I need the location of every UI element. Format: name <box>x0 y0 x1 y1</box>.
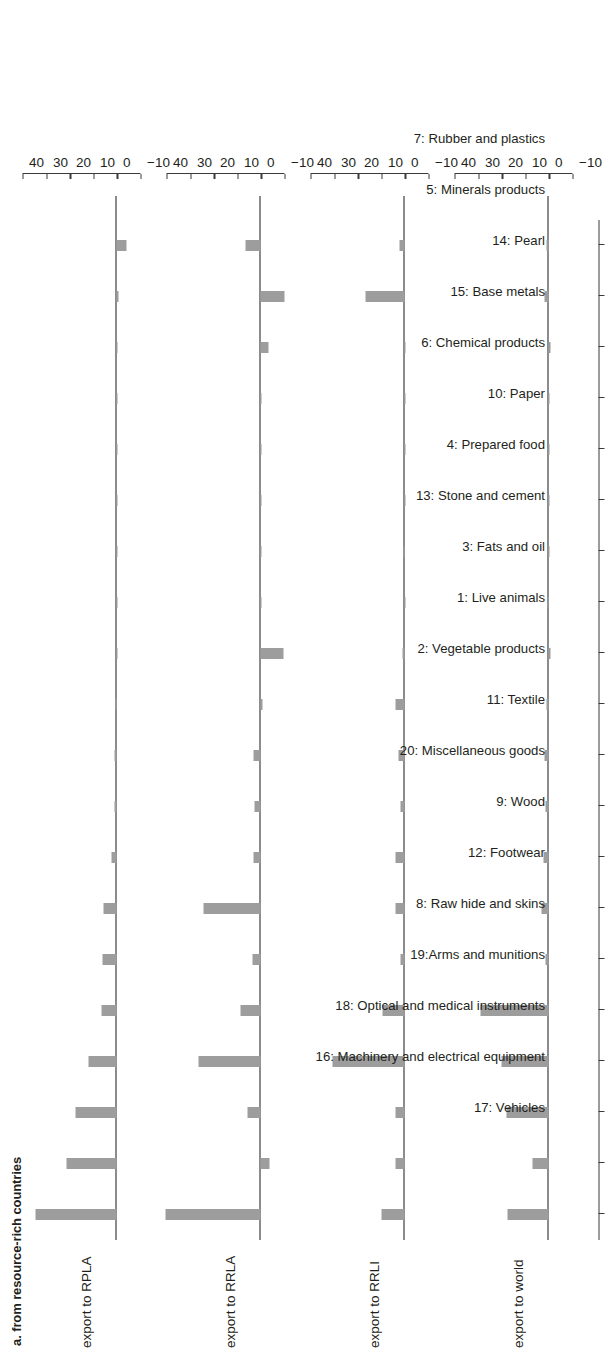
category-tick <box>598 907 604 908</box>
category-axis-spine <box>598 220 599 1240</box>
category-tick <box>598 652 604 653</box>
category-label: 17: Vehicles <box>0 1100 545 1115</box>
category-tick <box>598 1213 604 1214</box>
category-tick <box>598 1162 604 1163</box>
category-label: 6: Chemical products <box>0 335 545 350</box>
category-tick <box>598 958 604 959</box>
category-label: 16: Machinery and electrical equipment <box>0 1049 545 1064</box>
category-tick <box>598 295 604 296</box>
category-tick <box>598 346 604 347</box>
category-label: 10: Paper <box>0 386 545 401</box>
category-tick <box>598 448 604 449</box>
category-label: 8: Raw hide and skins <box>0 896 545 911</box>
category-tick <box>598 601 604 602</box>
category-label: 13: Stone and cement <box>0 488 545 503</box>
category-label: 4: Prepared food <box>0 437 545 452</box>
category-tick <box>598 244 604 245</box>
category-label: 20: Miscellaneous goods <box>0 743 545 758</box>
category-axis-line <box>598 220 606 1240</box>
category-label: 9: Wood <box>0 794 545 809</box>
category-tick <box>598 1009 604 1010</box>
category-tick <box>598 805 604 806</box>
category-label: 19:Arms and munitions <box>0 947 545 962</box>
category-tick <box>598 1060 604 1061</box>
category-tick <box>598 550 604 551</box>
category-label: 7: Rubber and plastics <box>0 131 545 146</box>
category-label: 2: Vegetable products <box>0 641 545 656</box>
category-label: 11: Textile <box>0 692 545 707</box>
category-tick <box>598 754 604 755</box>
category-label: 5: Minerals products <box>0 182 545 197</box>
category-label: 12: Footwear <box>0 845 545 860</box>
category-tick <box>598 1111 604 1112</box>
category-label: 15: Base metals <box>0 284 545 299</box>
category-tick <box>598 703 604 704</box>
category-label: 14: Pearl <box>0 233 545 248</box>
category-tick <box>598 856 604 857</box>
category-label: 3: Fats and oil <box>0 539 545 554</box>
category-label: 1: Live animals <box>0 590 545 605</box>
category-label: 18: Optical and medical instruments <box>0 998 545 1013</box>
category-tick <box>598 499 604 500</box>
category-tick <box>598 397 604 398</box>
